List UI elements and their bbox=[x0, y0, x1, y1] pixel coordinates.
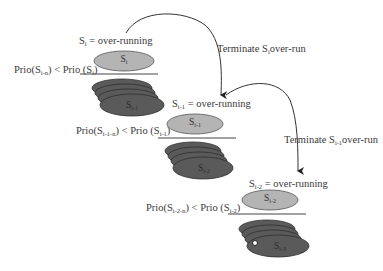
terminate-label-1: Terminate Siover-run bbox=[217, 44, 306, 56]
stack-label-si-2: Si-2 bbox=[190, 164, 218, 174]
terminate-label-2: Terminate Si-1over-run bbox=[284, 135, 378, 147]
status-si: Si = over-running bbox=[79, 36, 152, 48]
ellipse-label-si-2: Si-2 bbox=[256, 194, 284, 204]
cursor-marker bbox=[253, 241, 258, 246]
stack-label-si-1: Si-1 bbox=[120, 101, 144, 111]
priority-rule-1: Prio(Si-n) < Prio (Si) bbox=[14, 65, 98, 77]
stack-label-si-3: Si-3 bbox=[266, 242, 294, 252]
terminate-arrow-2 bbox=[226, 84, 298, 171]
status-si-2: Si-2 = over-running bbox=[249, 179, 328, 191]
status-si-1: Si-1 = over-running bbox=[172, 99, 251, 111]
priority-rule-2: Prio(Si-1-n) < Prio (Si-1) bbox=[76, 126, 170, 138]
priority-rule-3: Prio(Si-2-n) < Prio (Si-2) bbox=[146, 203, 240, 215]
ellipse-label-si-1: Si-1 bbox=[181, 118, 209, 128]
ellipse-label-si: Si bbox=[112, 55, 136, 65]
